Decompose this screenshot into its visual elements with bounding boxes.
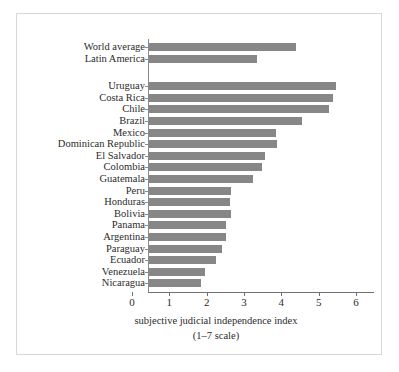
x-axis-tick-label: 2 <box>204 297 210 308</box>
y-axis-tick <box>145 121 148 122</box>
x-axis-tick-label: 4 <box>279 297 285 308</box>
bar-category-label: Costa Rica <box>99 93 145 104</box>
bar-category-label: Honduras <box>104 197 145 208</box>
y-axis-tick <box>145 214 148 215</box>
x-axis-tick-label: 5 <box>316 297 322 308</box>
x-axis-tick-label: 1 <box>167 297 173 308</box>
bar-row: Panama <box>149 221 373 229</box>
bar <box>149 82 336 90</box>
bar-row: World average <box>149 43 373 51</box>
bar-category-label: Dominican Republic <box>58 139 145 150</box>
y-axis-tick <box>145 179 148 180</box>
bar <box>149 210 231 218</box>
bar-row: Colombia <box>149 163 373 171</box>
y-axis-tick <box>145 47 148 48</box>
bar-row: Brazil <box>149 117 373 125</box>
bar-category-label: World average <box>84 42 145 53</box>
y-axis-tick <box>145 191 148 192</box>
bar-category-label: Panama <box>112 220 145 231</box>
y-axis-tick <box>145 98 148 99</box>
bar-category-label: Nicaragua <box>102 278 145 289</box>
bar-category-label: Argentina <box>103 232 145 243</box>
bar <box>149 233 226 241</box>
bar-category-label: Brazil <box>119 116 145 127</box>
y-axis-tick <box>145 283 148 284</box>
bar <box>149 268 205 276</box>
bar <box>149 105 329 113</box>
bar-row: Honduras <box>149 198 373 206</box>
bar <box>149 163 262 171</box>
y-axis-tick <box>145 260 148 261</box>
bar-row: El Salvador <box>149 152 373 160</box>
bar <box>149 55 257 63</box>
bar <box>149 256 216 264</box>
bar <box>149 221 226 229</box>
y-axis-tick <box>145 59 148 60</box>
bar-category-label: El Salvador <box>96 151 145 162</box>
y-axis-tick <box>145 156 148 157</box>
bar-category-label: Ecuador <box>110 255 145 266</box>
bar <box>149 117 302 125</box>
y-axis-tick <box>145 237 148 238</box>
bar-row: Bolivia <box>149 210 373 218</box>
y-axis-tick <box>145 202 148 203</box>
figure-container: World averageLatin AmericaUruguayCosta R… <box>0 0 399 372</box>
bar-category-label: Colombia <box>104 162 145 173</box>
bar-row: Ecuador <box>149 256 373 264</box>
y-axis-tick <box>145 249 148 250</box>
bar <box>149 152 265 160</box>
bar-row: Argentina <box>149 233 373 241</box>
y-axis-tick <box>145 109 148 110</box>
bar-row: Peru <box>149 187 373 195</box>
bar-row: Nicaragua <box>149 279 373 287</box>
x-axis-tick-label: 3 <box>241 297 247 308</box>
y-axis-tick <box>145 167 148 168</box>
bar-category-label: Mexico <box>113 127 145 138</box>
bar-category-label: Latin America <box>85 53 145 64</box>
x-axis-tick-label: 6 <box>353 297 359 308</box>
figure-frame: World averageLatin AmericaUruguayCosta R… <box>16 13 382 355</box>
bar-category-label: Paraguay <box>106 243 145 254</box>
y-axis-tick <box>145 225 148 226</box>
bar-row: Mexico <box>149 129 373 137</box>
bar-category-label: Chile <box>122 104 145 115</box>
bar <box>149 140 277 148</box>
y-axis-tick <box>145 86 148 87</box>
x-axis-label-line2: (1–7 scale) <box>33 328 399 343</box>
plot-area: World averageLatin AmericaUruguayCosta R… <box>149 39 373 292</box>
bar-row: Dominican Republic <box>149 140 373 148</box>
y-axis-tick <box>145 144 148 145</box>
bar <box>149 198 230 206</box>
bar <box>149 279 201 287</box>
bar-category-label: Peru <box>126 185 145 196</box>
x-axis-tick-label: 0 <box>129 297 135 308</box>
bar-row: Chile <box>149 105 373 113</box>
x-axis-spine <box>148 292 374 293</box>
y-axis-tick <box>145 133 148 134</box>
bar-row: Latin America <box>149 55 373 63</box>
y-axis-tick <box>145 272 148 273</box>
bar <box>149 245 222 253</box>
bar <box>149 94 333 102</box>
x-axis-label: subjective judicial independence index (… <box>33 313 399 343</box>
bar-category-label: Guatemala <box>100 174 145 185</box>
bar <box>149 43 296 51</box>
bar-category-label: Uruguay <box>108 81 145 92</box>
bar-category-label: Venezuela <box>102 267 145 278</box>
bar <box>149 129 276 137</box>
bar <box>149 175 253 183</box>
bar-row: Paraguay <box>149 245 373 253</box>
bar-row: Guatemala <box>149 175 373 183</box>
bar-row: Uruguay <box>149 82 373 90</box>
bar-row: Costa Rica <box>149 94 373 102</box>
bar <box>149 187 231 195</box>
x-axis-label-line1: subjective judicial independence index <box>33 313 399 328</box>
bar-row: Venezuela <box>149 268 373 276</box>
bar-category-label: Bolivia <box>114 209 145 220</box>
